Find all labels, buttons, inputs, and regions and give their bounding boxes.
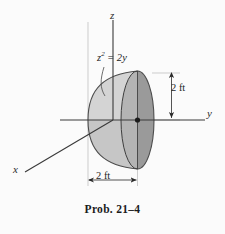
equation-right: 2y	[117, 52, 127, 63]
y-axis-label: y	[207, 108, 212, 119]
problem-figure: z y x z2 = 2y 2 ft 2 ft Prob. 21–4	[0, 0, 225, 234]
z-axis-label: z	[110, 10, 114, 21]
equation-operator: =	[105, 52, 117, 63]
figure-caption: Prob. 21–4	[0, 203, 225, 215]
figure-canvas	[0, 0, 225, 234]
origin-marker	[135, 117, 140, 122]
surface-equation-label: z2 = 2y	[97, 50, 127, 63]
vertical-dimension-label: 2 ft	[171, 82, 185, 93]
horizontal-dimension-label: 2 ft	[96, 170, 110, 181]
x-axis-label: x	[13, 164, 18, 175]
